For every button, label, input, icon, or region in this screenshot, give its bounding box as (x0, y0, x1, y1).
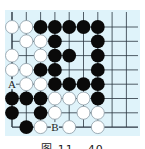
point-label-b: B (51, 121, 58, 133)
white-stone (77, 106, 90, 119)
black-stone (5, 92, 19, 106)
white-stone (48, 92, 61, 105)
figure-caption: 图 11 - 40 (0, 140, 145, 149)
black-stone (48, 63, 62, 77)
white-stone (6, 21, 19, 34)
white-stone (34, 78, 47, 91)
black-stone (34, 92, 48, 106)
black-stone (77, 77, 91, 91)
white-stone (48, 106, 61, 119)
white-stone (6, 49, 19, 62)
white-stone (91, 106, 104, 119)
white-stone (63, 121, 76, 134)
white-stone (6, 63, 19, 76)
white-stone (63, 92, 76, 105)
black-stone (77, 20, 91, 34)
white-stone (20, 78, 33, 91)
white-stone (77, 92, 90, 105)
black-stone (34, 63, 48, 77)
black-stone (34, 20, 48, 34)
black-stone (34, 106, 48, 120)
black-stone (91, 77, 105, 91)
point-label-a: A (8, 78, 16, 90)
white-stone (20, 35, 33, 48)
black-stone (91, 92, 105, 106)
black-stone (62, 20, 76, 34)
black-stone (91, 34, 105, 48)
black-stone (48, 20, 62, 34)
black-stone (48, 34, 62, 48)
white-stone (20, 21, 33, 34)
black-stone (48, 49, 62, 63)
white-stone (34, 49, 47, 62)
white-stone (20, 63, 33, 76)
black-stone (91, 20, 105, 34)
black-stone (19, 120, 33, 134)
black-stone (91, 49, 105, 63)
white-stone (34, 35, 47, 48)
black-stone (91, 63, 105, 77)
black-stone (19, 92, 33, 106)
go-board: AB (5, 10, 140, 136)
black-stone (62, 77, 76, 91)
white-stone (34, 121, 47, 134)
white-stone (91, 121, 104, 134)
black-stone (48, 77, 62, 91)
black-stone (5, 106, 19, 120)
black-stone (62, 49, 76, 63)
